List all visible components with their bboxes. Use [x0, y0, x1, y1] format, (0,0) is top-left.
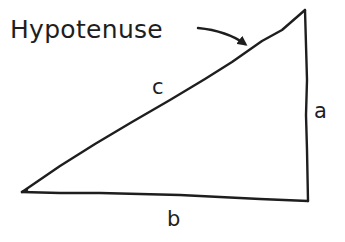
side-a-label: a [314, 99, 327, 123]
hypotenuse-label: Hypotenuse [10, 15, 163, 44]
side-c-label: c [152, 75, 164, 99]
right-triangle-diagram: Hypotenuse c a b [0, 0, 345, 242]
side-b-label: b [167, 207, 180, 231]
side-a [305, 10, 308, 201]
hypotenuse-arrow [198, 28, 245, 44]
side-b [22, 192, 308, 201]
